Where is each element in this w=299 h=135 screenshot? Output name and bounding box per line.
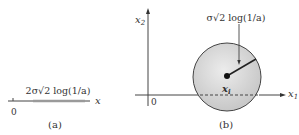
x1-axis-label: x1 bbox=[288, 88, 298, 101]
interval-label: 2σ√2 log(1/a) bbox=[26, 85, 91, 96]
figure: x 0 2σ√2 log(1/a) (a) σ√2 log(1/a) xi x1… bbox=[0, 0, 299, 135]
center-dot bbox=[224, 73, 230, 79]
x-axis-arrowhead-icon bbox=[280, 93, 286, 97]
radius-label: σ√2 log(1/a) bbox=[207, 12, 266, 23]
diagram-canvas: x 0 2σ√2 log(1/a) (a) σ√2 log(1/a) xi x1… bbox=[0, 0, 299, 135]
y-axis-arrowhead-icon bbox=[146, 8, 150, 14]
origin-label-b: 0 bbox=[151, 97, 157, 107]
x2-axis-label: x2 bbox=[135, 14, 146, 27]
caption-a: (a) bbox=[48, 119, 62, 130]
panel-a: x 0 2σ√2 log(1/a) (a) bbox=[8, 85, 101, 130]
panel-b: σ√2 log(1/a) xi x1 x2 0 (b) bbox=[135, 8, 298, 130]
origin-label: 0 bbox=[11, 107, 17, 117]
x-axis-label: x bbox=[95, 95, 101, 106]
caption-b: (b) bbox=[219, 119, 233, 130]
